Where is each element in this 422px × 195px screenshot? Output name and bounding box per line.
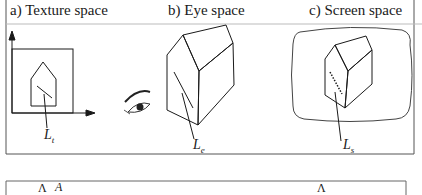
panel-a-title: a) Texture space: [10, 2, 108, 19]
texture-space-diagram: [9, 31, 95, 128]
figure-canvas: [0, 0, 422, 195]
bottom-glyph-1: Λ: [38, 181, 47, 195]
house-front-face: [325, 45, 348, 108]
eye-space-diagram: [167, 25, 234, 139]
label-texture-line: Lt: [44, 127, 54, 145]
bottom-glyph-2: A: [55, 180, 62, 195]
label-eye-line: Le: [193, 137, 205, 155]
eye-line: [174, 72, 193, 108]
top-frame: [6, 0, 414, 154]
texture-square: [12, 49, 73, 113]
label-leader: [182, 93, 194, 139]
label-screen-line: Ls: [343, 137, 354, 155]
x-axis-arrow-icon: [86, 110, 95, 116]
panel-b-title: b) Eye space: [168, 2, 245, 19]
eye-icon: [124, 91, 150, 114]
screen-space-diagram: [292, 27, 413, 141]
screen-outline: [292, 27, 413, 121]
y-axis-arrow-icon: [9, 31, 15, 40]
bottom-glyph-3: Λ: [317, 181, 326, 195]
label-leader: [335, 92, 341, 141]
house-outline: [31, 62, 56, 106]
screen-line: [330, 72, 342, 94]
house-side: [198, 43, 234, 125]
bottom-frame: [6, 181, 406, 195]
label-leader: [44, 94, 47, 128]
house-front-face: [167, 35, 199, 125]
house-side: [345, 50, 372, 108]
panel-c-title: c) Screen space: [309, 2, 402, 19]
